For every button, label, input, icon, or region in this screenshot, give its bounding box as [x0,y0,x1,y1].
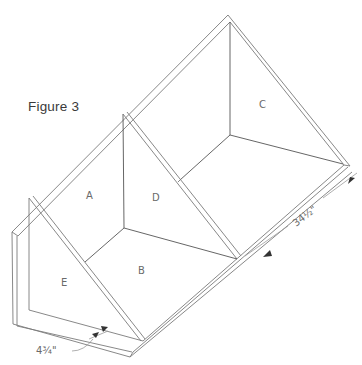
depth-dimension-label: 4¾" [36,345,57,356]
right-end-edge [230,20,350,166]
divider-d [85,112,241,262]
front-rail [130,165,352,357]
arrow-up-right-icon [348,177,355,184]
arrow-down-left-icon [263,250,272,257]
panel-label-d: D [152,192,160,203]
panel-label-a: A [86,190,93,201]
panel-label-b: B [138,265,145,276]
divider-e [29,196,145,341]
panel-label-e: E [61,277,67,288]
panel-label-c: C [259,99,266,110]
length-dimension-label: 34½" [290,203,318,228]
shelf-diagram: A B C D E 34½" 4¾" [0,0,362,365]
length-dimension: 34½" [245,173,357,257]
